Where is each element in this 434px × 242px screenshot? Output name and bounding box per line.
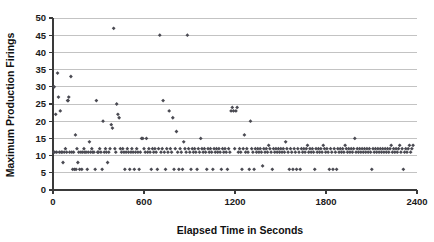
y-tick-label-50: 50	[35, 12, 46, 23]
y-tick-label-30: 30	[35, 81, 46, 92]
chart-canvas: 05101520253035404550 0600120018002400 El…	[0, 0, 434, 242]
y-tick-label-20: 20	[35, 116, 46, 127]
x-tick-label-1200: 1200	[224, 196, 245, 207]
y-tick-label-45: 45	[35, 30, 46, 41]
y-tick-label-35: 35	[35, 64, 46, 75]
y-tick-label-0: 0	[41, 184, 46, 195]
scatter-chart: 05101520253035404550 0600120018002400 El…	[0, 0, 434, 242]
y-tick-label-25: 25	[35, 98, 46, 109]
y-tick-label-10: 10	[35, 150, 46, 161]
y-tick-label-15: 15	[35, 133, 46, 144]
x-axis-title: Elapsed Time in Seconds	[177, 224, 304, 236]
x-tick-label-0: 0	[50, 196, 55, 207]
y-tick-label-40: 40	[35, 47, 46, 58]
x-tick-label-1800: 1800	[315, 196, 336, 207]
x-tick-label-600: 600	[136, 196, 152, 207]
x-tick-label-2400: 2400	[406, 196, 427, 207]
y-axis-title: Maximum Production Firings	[4, 33, 16, 178]
y-tick-label-5: 5	[41, 167, 47, 178]
